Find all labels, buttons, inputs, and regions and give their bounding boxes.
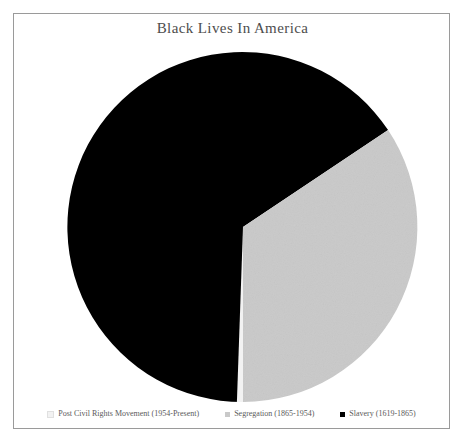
legend-swatch-icon (47, 411, 54, 418)
legend-item-segregation[interactable]: Segregation (1865-1954) (225, 409, 314, 419)
legend-item-label: Post Civil Rights Movement (1954-Present… (58, 409, 199, 419)
legend-item-post-civil-rights-movement[interactable]: Post Civil Rights Movement (1954-Present… (47, 409, 199, 419)
legend-swatch-icon (340, 412, 345, 417)
pie-chart (0, 0, 465, 445)
legend-swatch-icon (225, 412, 230, 417)
legend-item-slavery[interactable]: Slavery (1619-1865) (340, 409, 415, 419)
pie-chart-svg (0, 0, 465, 445)
legend-item-label: Slavery (1619-1865) (349, 409, 415, 419)
chart-page: Black Lives In America (0, 0, 465, 445)
legend: Post Civil Rights Movement (1954-Present… (13, 404, 450, 424)
legend-item-label: Segregation (1865-1954) (234, 409, 314, 419)
